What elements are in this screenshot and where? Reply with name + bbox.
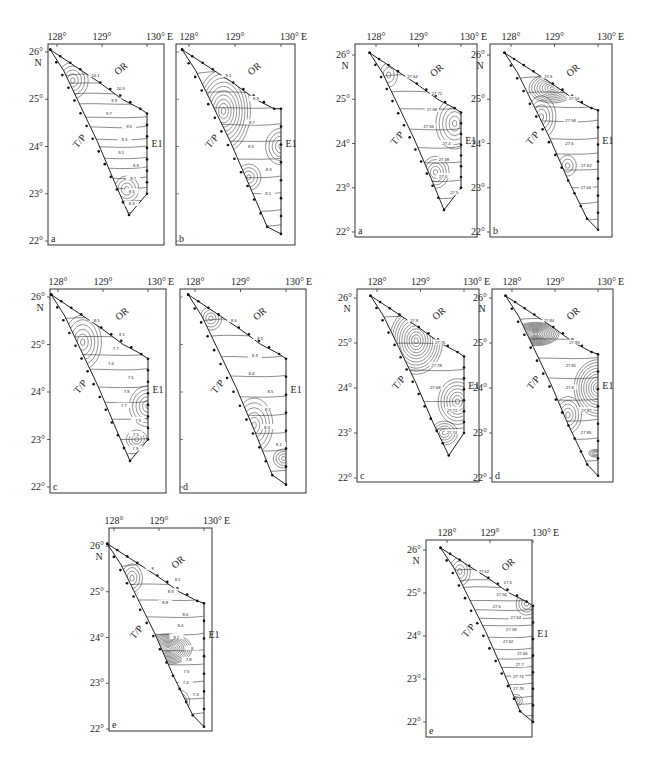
- region-label-e1: E1: [537, 628, 548, 639]
- contour-value-label: 27.56: [496, 592, 507, 597]
- contour-value-label: 27.62: [503, 639, 514, 644]
- station-dot: [497, 582, 500, 585]
- station-dot: [507, 685, 510, 688]
- longitude-tick-label: 128°: [438, 527, 457, 538]
- contour-value-label: 27.5: [504, 580, 513, 585]
- station-dot: [488, 647, 491, 650]
- station-dot: [532, 605, 535, 608]
- north-unit-label: N: [412, 555, 419, 566]
- station-dot: [476, 622, 479, 625]
- contour-value-label: 27.78: [513, 686, 524, 691]
- station-dot: [516, 594, 519, 597]
- latitude-tick-label: 23°: [407, 673, 421, 684]
- station-dot: [439, 547, 442, 550]
- contour-lines: [430, 557, 542, 721]
- contour-value-label: 27.7: [516, 662, 525, 667]
- station-dot: [449, 553, 452, 556]
- station-dot: [532, 704, 535, 707]
- station-boundary: [441, 548, 534, 722]
- station-dot: [532, 621, 535, 624]
- east-unit-label: E: [553, 527, 559, 538]
- station-dot: [464, 597, 467, 600]
- panel-letter: e: [429, 725, 434, 736]
- station-dot: [532, 721, 535, 724]
- longitude-tick-label: 130°: [532, 527, 551, 538]
- contour-value-label: 27.74: [513, 674, 524, 679]
- station-dot: [532, 688, 535, 691]
- station-dot: [458, 558, 461, 561]
- contour-value-label: 27.64: [511, 615, 522, 620]
- station-dot: [445, 559, 448, 562]
- station-dot: [451, 572, 454, 575]
- region-label-or: OR: [499, 555, 517, 573]
- contour-value-label: 27.66: [517, 651, 528, 656]
- station-dot: [532, 654, 535, 657]
- station-dot: [532, 638, 535, 641]
- station-dot: [519, 710, 522, 713]
- station-dot: [468, 564, 471, 567]
- station-dot: [506, 588, 509, 591]
- contour-value-label: 27.6: [493, 604, 502, 609]
- latitude-tick-label: 24°: [407, 630, 421, 641]
- latitude-tick-label: 25°: [407, 587, 421, 598]
- station-dot: [458, 584, 461, 587]
- longitude-tick-label: 129°: [481, 527, 500, 538]
- station-dot: [532, 671, 535, 674]
- station-dot: [470, 609, 473, 612]
- station-dot: [487, 576, 490, 579]
- station-dot: [482, 635, 485, 638]
- station-dot: [500, 672, 503, 675]
- contour-value-label: 27.58: [506, 627, 517, 632]
- latitude-tick-label: 26°: [407, 544, 421, 555]
- region-label-tp: T/P: [459, 621, 477, 639]
- contour-value-label: 27.52: [479, 569, 490, 574]
- latitude-tick-label: 22°: [407, 716, 421, 727]
- station-dot: [494, 660, 497, 663]
